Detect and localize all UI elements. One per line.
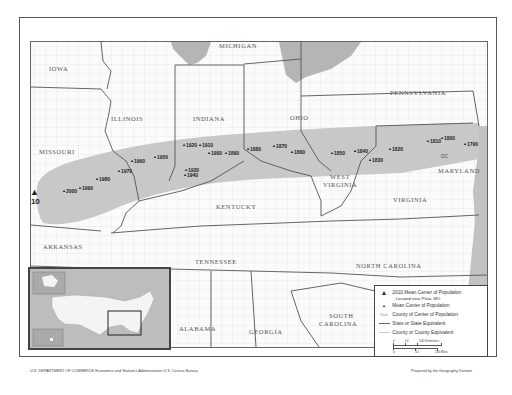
inset-us-map <box>28 267 171 350</box>
center-year-label: 1950 <box>157 154 168 160</box>
state-label: GEORGIA <box>249 328 282 335</box>
legend-2010-sublabel: Located near Plato, MO <box>396 296 440 301</box>
center-year-label: 1970 <box>121 168 132 174</box>
state-label: WEST <box>330 173 350 180</box>
county-sample-icon: Kent <box>377 313 391 317</box>
state-label: CAROLINA <box>319 320 357 327</box>
center-year-label: 1840 <box>357 148 368 154</box>
conus <box>52 291 154 335</box>
center-year-label: 1820 <box>392 146 403 152</box>
center-year-label: 1850 <box>334 150 345 156</box>
center-year-label: 1800 <box>444 135 455 141</box>
center-year-label: 1910 <box>202 142 213 148</box>
center-year-label: 1790 <box>467 141 478 147</box>
state-label: ARKANSAS <box>43 243 83 250</box>
center-year-label: 1990 <box>82 185 93 191</box>
center-year-label: 1930 <box>188 167 199 173</box>
state-label: IOWA <box>49 65 68 72</box>
state-label: MICHIGAN <box>219 42 257 49</box>
center-year-label: 1880 <box>250 146 261 152</box>
large-triangle-icon: ▲ <box>377 289 391 296</box>
legend-item-2010-center: ▲ 2010 Mean Center of Population <box>377 289 461 296</box>
state-label: INDIANA <box>193 115 225 122</box>
center-year-label: 1900 <box>211 150 222 156</box>
center-year-label: 1920 <box>186 142 197 148</box>
state-label: PENNSYLVANIA <box>390 89 446 96</box>
center-year-label: 1870 <box>276 143 287 149</box>
legend-item-mean-center: ▲ Mean Center of Population <box>377 303 449 308</box>
center-year-label: 1960 <box>134 158 145 164</box>
legend-item-county-line: County or County Equivalent <box>377 330 453 335</box>
large-triangle-icon: ▲ <box>30 187 39 197</box>
scale-bar: 0 50 100 Kilometers 0 50 100 Miles <box>393 340 453 354</box>
state-label: VIRGINIA <box>323 181 357 188</box>
state-label: NORTH CAROLINA <box>356 262 422 269</box>
footer-prepared-by: Prepared by the Geography Division <box>411 369 472 373</box>
center-year-label: 2000 <box>66 188 77 194</box>
footer-agency: U.S. DEPARTMENT OF COMMERCE Economics an… <box>30 369 198 373</box>
state-label: ALABAMA <box>179 325 216 332</box>
center-year-label: 1890 <box>228 150 239 156</box>
legend-item-state-line: State or State Equivalent <box>377 321 445 326</box>
legend-item-county-center: Kent County of Center of Population <box>377 312 458 317</box>
state-label: MISSOURI <box>39 148 75 155</box>
small-triangle-icon: ▲ <box>377 303 391 308</box>
state-label: OHIO <box>290 114 309 121</box>
state-label: SOUTH <box>329 312 354 319</box>
dc-label: DC <box>441 153 448 159</box>
center-year-label: 1860 <box>294 149 305 155</box>
state-label: TENNESSEE <box>195 258 237 265</box>
state-line-icon <box>377 321 391 326</box>
hawaii-inset <box>33 329 63 346</box>
county-line-icon <box>377 330 391 335</box>
center-year-label: 1980 <box>99 176 110 182</box>
state-label: ILLINOIS <box>111 115 143 122</box>
center-year-label: 2010 <box>30 197 40 206</box>
center-year-label: 1830 <box>372 157 383 163</box>
state-label: VIRGINIA <box>393 196 427 203</box>
map-legend: ▲ 2010 Mean Center of Population Located… <box>374 285 488 357</box>
state-label: MARYLAND <box>438 167 480 174</box>
state-label: KENTUCKY <box>216 203 257 210</box>
